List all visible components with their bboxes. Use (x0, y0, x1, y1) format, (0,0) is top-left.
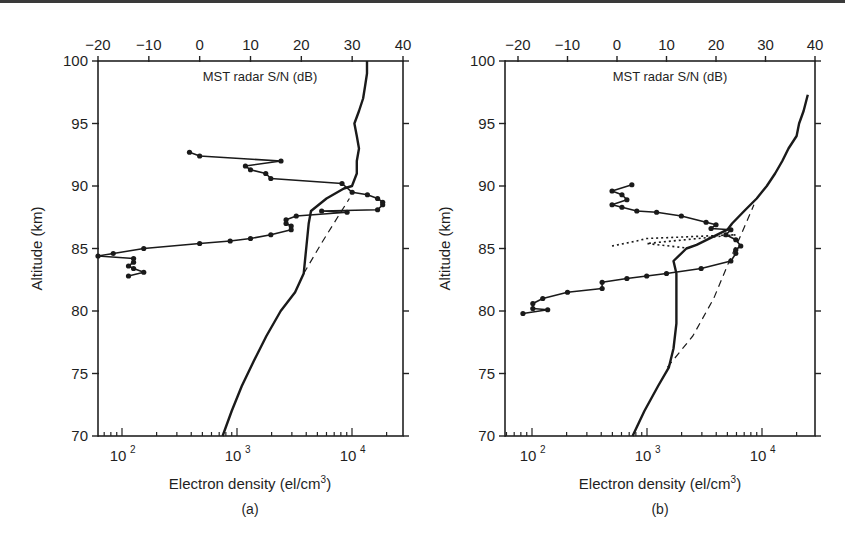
data-point-marker (111, 251, 116, 256)
x-tick-label: 10 (520, 447, 537, 464)
figure-canvas: 707580859095100−20−10010203040102103104M… (0, 0, 845, 555)
data-point-marker (319, 208, 324, 213)
data-point-marker (644, 273, 649, 278)
panel-label: (b) (651, 501, 668, 517)
y-tick-label: 95 (71, 115, 88, 132)
data-point-marker (375, 207, 380, 212)
data-point-marker (289, 227, 294, 232)
y-tick-label: 90 (71, 177, 88, 194)
top-x-tick-label: 10 (658, 36, 675, 53)
y-tick-label: 100 (63, 52, 88, 69)
data-point-marker (708, 226, 713, 231)
data-point-marker (344, 210, 349, 215)
y-tick-label: 75 (478, 365, 495, 382)
data-point-marker (131, 260, 136, 265)
x-axis-title: Electron density (el/cm3) (169, 474, 331, 492)
y-tick-label: 90 (478, 177, 495, 194)
data-point-marker (187, 150, 192, 155)
series-electron-density-profile (633, 95, 808, 436)
data-point-marker (733, 251, 738, 256)
data-point-marker (545, 307, 550, 312)
data-point-marker (294, 213, 299, 218)
data-point-marker (131, 266, 136, 271)
data-point-marker (141, 270, 146, 275)
data-point-marker (95, 253, 100, 258)
data-point-marker (619, 192, 624, 197)
data-point-marker (540, 296, 545, 301)
data-point-marker (248, 167, 253, 172)
series-mst-radar-s-n-dotted-segment (612, 235, 736, 249)
data-point-marker (624, 276, 629, 281)
data-point-marker (197, 153, 202, 158)
y-axis-title: Altitude (km) (28, 206, 45, 290)
data-point-marker (609, 188, 614, 193)
top-x-tick-label: 30 (344, 36, 361, 53)
series-mst-radar-s-n (523, 185, 741, 314)
data-point-marker (704, 220, 709, 225)
x-tick-exponent: 2 (130, 444, 136, 455)
y-tick-label: 80 (71, 302, 88, 319)
data-point-marker (629, 182, 634, 187)
y-tick-label: 85 (71, 240, 88, 257)
data-point-marker (141, 246, 146, 251)
data-point-marker (375, 196, 380, 201)
data-point-marker (228, 238, 233, 243)
y-tick-label: 75 (71, 365, 88, 382)
top-x-tick-label: −20 (505, 36, 530, 53)
y-tick-label: 70 (71, 427, 88, 444)
y-tick-label: 100 (470, 52, 495, 69)
data-point-marker (350, 190, 355, 195)
x-axis-title: Electron density (el/cm3) (579, 474, 741, 492)
data-point-marker (263, 171, 268, 176)
data-point-marker (248, 236, 253, 241)
data-point-marker (733, 237, 738, 242)
chart-panel-a: 707580859095100−20−10010203040102103104M… (28, 36, 411, 517)
data-point-marker (624, 197, 629, 202)
top-x-tick-label: 0 (613, 36, 621, 53)
data-point-marker (520, 311, 525, 316)
data-point-marker (619, 205, 624, 210)
top-axis-title: MST radar S/N (dB) (203, 69, 318, 84)
x-tick-exponent: 4 (770, 444, 776, 455)
x-tick-exponent: 4 (360, 444, 366, 455)
data-point-marker (600, 286, 605, 291)
x-tick-label: 10 (110, 447, 127, 464)
data-point-marker (126, 273, 131, 278)
y-tick-label: 70 (478, 427, 495, 444)
top-x-tick-label: −10 (555, 36, 580, 53)
data-point-marker (365, 192, 370, 197)
top-x-tick-label: 10 (242, 36, 259, 53)
data-point-marker (738, 243, 743, 248)
x-tick-exponent: 3 (245, 444, 251, 455)
y-axis-title: Altitude (km) (436, 206, 453, 290)
top-x-tick-label: 30 (757, 36, 774, 53)
data-point-marker (380, 202, 385, 207)
plot-frame (505, 61, 815, 436)
top-x-tick-label: −20 (85, 36, 110, 53)
y-tick-label: 95 (478, 115, 495, 132)
data-point-marker (530, 306, 535, 311)
x-tick-label: 10 (750, 447, 767, 464)
data-point-marker (278, 158, 283, 163)
data-point-marker (664, 271, 669, 276)
data-point-marker (713, 222, 718, 227)
top-axis-title: MST radar S/N (dB) (613, 69, 728, 84)
series-extrapolated-profile (304, 199, 350, 274)
top-x-tick-label: 40 (395, 36, 412, 53)
data-point-marker (634, 208, 639, 213)
x-tick-label: 10 (225, 447, 242, 464)
x-tick-exponent: 3 (655, 444, 661, 455)
y-tick-label: 80 (478, 302, 495, 319)
data-point-marker (268, 232, 273, 237)
data-point-marker (197, 241, 202, 246)
data-point-marker (339, 181, 344, 186)
top-x-tick-label: −10 (136, 36, 161, 53)
top-x-tick-label: 0 (195, 36, 203, 53)
data-point-marker (699, 266, 704, 271)
panel-label: (a) (241, 501, 258, 517)
data-point-marker (654, 210, 659, 215)
data-point-marker (609, 202, 614, 207)
data-point-marker (728, 227, 733, 232)
top-x-tick-label: 40 (807, 36, 824, 53)
data-point-marker (600, 280, 605, 285)
